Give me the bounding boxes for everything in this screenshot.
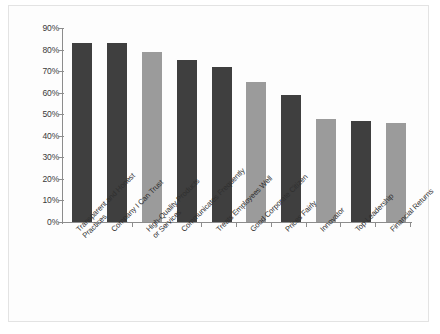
- y-axis-tick: [58, 50, 64, 51]
- y-axis-tick-label: 90%: [15, 24, 59, 32]
- bar[interactable]: [107, 43, 127, 222]
- y-axis-tick: [58, 71, 64, 72]
- y-axis-tick: [58, 136, 64, 137]
- y-axis-tick-label: 40%: [15, 132, 59, 140]
- y-axis-tick-label: 80%: [15, 46, 59, 54]
- bar[interactable]: [142, 52, 162, 222]
- y-axis-tick: [58, 93, 64, 94]
- y-axis-tick-label: 30%: [15, 153, 59, 161]
- y-axis-labels: 0%10%20%30%40%50%60%70%80%90%: [9, 6, 59, 306]
- y-axis-tick-label: 50%: [15, 110, 59, 118]
- y-axis-tick: [58, 114, 64, 115]
- x-axis-tick: [410, 222, 411, 227]
- x-axis-line: [62, 222, 412, 223]
- bar[interactable]: [386, 123, 406, 222]
- bar[interactable]: [212, 67, 232, 222]
- x-axis-tick: [201, 222, 202, 227]
- y-axis-tick: [58, 28, 64, 29]
- plot-area: [63, 28, 411, 222]
- bar[interactable]: [246, 82, 266, 222]
- x-axis-tick: [340, 222, 341, 227]
- x-axis-tick: [166, 222, 167, 227]
- bar[interactable]: [177, 60, 197, 222]
- y-axis-tick-label: 10%: [15, 196, 59, 204]
- x-axis-tick: [132, 222, 133, 227]
- x-axis-tick: [375, 222, 376, 227]
- y-axis-tick-label: 70%: [15, 67, 59, 75]
- y-axis-tick: [58, 200, 64, 201]
- y-axis-tick: [58, 222, 64, 223]
- y-axis-tick: [58, 179, 64, 180]
- bar[interactable]: [316, 119, 336, 222]
- chart-card: 0%10%20%30%40%50%60%70%80%90% Transparen…: [8, 5, 429, 322]
- bar[interactable]: [72, 43, 92, 222]
- x-axis-tick: [236, 222, 237, 227]
- y-axis-tick-label: 0%: [15, 218, 59, 226]
- y-axis-tick: [58, 157, 64, 158]
- x-axis-tick: [97, 222, 98, 227]
- x-axis-tick: [306, 222, 307, 227]
- bar[interactable]: [281, 95, 301, 222]
- x-axis-tick: [271, 222, 272, 227]
- y-axis-tick-label: 20%: [15, 175, 59, 183]
- y-axis-tick-label: 60%: [15, 89, 59, 97]
- bar[interactable]: [351, 121, 371, 222]
